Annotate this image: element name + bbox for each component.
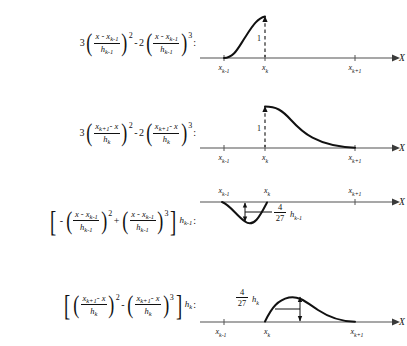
operator: - [134,38,137,48]
annotation-numerator: 4 [278,202,283,212]
formula-4: [ ( xk+1- x hk ) 2 - ( xk+1- x hk ) 3 ] … [0,262,200,346]
operator: + [114,216,120,226]
numerator-2: xk+1- x [135,293,161,304]
right-paren-2: ) [180,123,188,143]
right-paren: ) [100,211,108,231]
height-arrowhead-bottom [298,316,302,322]
left-paren-2: ( [126,295,134,315]
fraction: xk+1- x hk [81,293,107,316]
numerator-2: x - xk-1 [153,31,179,42]
exponent: 2 [108,210,112,218]
basis-curve-falling [265,107,355,148]
tick-label-left: xk-1 [218,153,230,164]
x-axis-label: X [398,197,406,207]
exponent-2: 3 [188,122,192,130]
figure-row-1: 3 ( x - xk-1 hk-1 ) 2 - 2 ( x - xk-1 hk-… [0,0,407,86]
right-paren: ) [120,33,128,53]
value-label-one: 1 [257,34,261,43]
left-paren-2: ( [145,33,153,53]
denominator-2: hk-1 [159,44,175,55]
coefficient: 3 [80,38,85,48]
right-paren: ) [120,123,128,143]
tick-label-mid: xk [261,153,269,164]
formula-4-expression: [ ( xk+1- x hk ) 2 - ( xk+1- x hk ) 3 ] … [62,293,196,316]
figure-row-4: [ ( xk+1- x hk ) 2 - ( xk+1- x hk ) 3 ] … [0,262,407,346]
tick-label-mid: xk [263,327,271,338]
x-axis-label: X [398,317,406,327]
denominator: hk-1 [99,44,115,55]
tick-label-left: xk-1 [218,63,230,74]
value-label-one: 1 [257,124,261,133]
fraction: xk+1- x hk [94,121,120,144]
denominator: hk-1 [79,222,95,233]
annotation-denominator: 27 [238,298,247,308]
right-paren-2: ) [156,211,164,231]
annotation-denominator: 27 [276,213,285,223]
leading-minus: - [60,216,63,226]
exponent-2: 3 [164,210,168,218]
right-paren-2: ) [162,295,170,315]
numerator: x - xk-1 [94,31,120,42]
operator: - [121,300,124,310]
coefficient-2: 2 [139,38,144,48]
denominator-2: hk [143,306,153,317]
figure-row-3: [ - ( x - xk-1 hk-1 ) 2 + ( x - xk-1 hk-… [0,178,407,264]
annotation-factor: hk [252,294,259,306]
plot-2: X xk-1 xk xk+1 1 [196,90,407,176]
plot-3: X xk-1 xk xk+1 4 27 hk-1 [196,178,407,264]
coefficient: 3 [79,128,84,138]
numerator: x - xk-1 [73,209,99,220]
depth-arrowhead-top [243,203,247,208]
numerator: xk+1- x [94,121,120,132]
left-paren: ( [72,295,80,315]
fraction-2: xk+1- x hk [153,121,179,144]
annotation-factor: hk-1 [290,209,302,221]
left-paren-2: ( [145,123,153,143]
exponent: 2 [129,122,133,130]
coefficient-2: 2 [139,128,144,138]
x-axis-label: X [398,143,406,153]
fraction-2: x - xk-1 hk-1 [130,209,156,232]
right-bracket: ] [168,209,178,232]
formula-1-expression: 3 ( x - xk-1 hk-1 ) 2 - 2 ( x - xk-1 hk-… [80,31,196,54]
left-paren: ( [85,123,93,143]
figure-row-2: 3 ( xk+1- x hk ) 2 - 2 ( xk+1- x hk ) 3 … [0,90,407,176]
formula-3: [ - ( x - xk-1 hk-1 ) 2 + ( x - xk-1 hk-… [0,178,200,264]
annotation-fraction-group: 4 27 [274,202,286,223]
plot-2-svg: X xk-1 xk xk+1 1 [196,90,407,176]
tick-label-mid: xk [263,186,271,197]
tick-label-mid: xk [261,63,269,74]
denominator-2: hk [161,134,171,145]
exponent-2: 3 [170,294,174,302]
numerator-2: xk+1- x [153,121,179,132]
tick-label-right: xk+1 [348,153,362,164]
exponent: 2 [129,32,133,40]
exponent: 2 [116,294,120,302]
denominator-2: hk-1 [135,222,151,233]
left-bracket: [ [62,293,72,316]
formula-2-expression: 3 ( xk+1- x hk ) 2 - 2 ( xk+1- x hk ) 3 … [79,121,196,144]
denominator: hk [89,306,99,317]
plot-4: X xk-1 xk xk+1 4 27 hk [196,262,407,346]
x-axis-label: X [398,53,406,63]
operator: - [134,128,137,138]
tick-label-right: xk+1 [348,186,362,197]
tick-label-right: xk+1 [348,63,362,74]
exponent-2: 3 [188,32,192,40]
left-bracket: [ [48,209,58,232]
plot-1-svg: X xk-1 xk xk+1 1 [196,0,407,86]
fraction-2: x - xk-1 hk-1 [153,31,179,54]
annotation-numerator: 4 [240,287,245,297]
tick-label-right: xk+1 [350,327,364,338]
numerator: xk+1- x [81,293,107,304]
left-paren: ( [65,211,73,231]
fraction: x - xk-1 hk-1 [73,209,99,232]
denominator: hk [102,134,112,145]
right-paren: ) [107,295,115,315]
tick-label-left: xk-1 [218,186,230,197]
tick-label-left: xk-1 [215,327,227,338]
trailing-factor: hk-1 [179,216,192,225]
formula-1: 3 ( x - xk-1 hk-1 ) 2 - 2 ( x - xk-1 hk-… [0,0,200,86]
left-paren-2: ( [121,211,129,231]
plot-4-svg: X xk-1 xk xk+1 4 27 hk [196,262,407,346]
